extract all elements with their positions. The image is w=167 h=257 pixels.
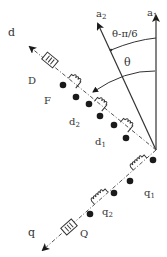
- angle-arc-theta-minus-pi6: [111, 38, 156, 50]
- coil-F: [66, 73, 82, 89]
- q-axis: [43, 150, 156, 250]
- label-angle-theta: θ: [124, 56, 131, 69]
- label-d-axis: d: [8, 26, 15, 39]
- label-d2: d2: [69, 116, 80, 129]
- dq-frame-diagram: a1 a2 θ-π/6 θ d D F d2 d1 q1 q2 q Q: [0, 0, 167, 257]
- coil-d1: [118, 117, 134, 133]
- label-q1: q1: [144, 187, 155, 200]
- label-angle-theta-minus-pi6: θ-π/6: [112, 28, 138, 39]
- arc-end-dot: [110, 49, 113, 52]
- coil-q1-terminal-2: [127, 178, 134, 185]
- label-Q: Q: [80, 228, 88, 239]
- coil-d1-terminal-2: [123, 135, 130, 142]
- label-a2: a2: [96, 8, 106, 21]
- label-D: D: [28, 75, 36, 86]
- label-q-axis: q: [28, 226, 35, 239]
- coil-q1-terminal-1: [150, 157, 157, 164]
- a2-axis: [98, 24, 156, 150]
- coil-q2: [90, 187, 108, 204]
- label-d1: d1: [95, 136, 106, 149]
- coil-D: [42, 52, 59, 68]
- coil-d2-terminal-1: [86, 101, 93, 108]
- label-F: F: [44, 95, 51, 106]
- coil-F-terminal-1: [60, 82, 67, 89]
- label-a1: a1: [147, 7, 157, 20]
- coil-F-terminal-2: [73, 94, 80, 101]
- label-q2: q2: [102, 206, 113, 219]
- coil-q1: [129, 153, 147, 170]
- coil-d1-terminal-1: [111, 122, 118, 129]
- coil-d2-terminal-2: [97, 113, 104, 120]
- coil-q2-terminal-1: [111, 190, 118, 197]
- coil-q2-terminal-2: [87, 211, 94, 218]
